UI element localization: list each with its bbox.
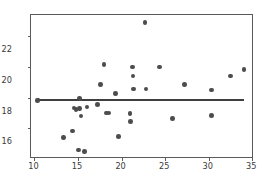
- x-tick-label: 15: [72, 162, 82, 170]
- data-point: [82, 149, 87, 154]
- data-point: [77, 96, 82, 101]
- data-point: [85, 105, 90, 110]
- data-point: [107, 111, 112, 116]
- data-point: [209, 88, 214, 93]
- data-point: [76, 148, 81, 153]
- data-point: [61, 135, 66, 140]
- data-point: [102, 62, 107, 67]
- data-point: [131, 87, 136, 92]
- x-tick-label: 35: [246, 162, 256, 170]
- data-point: [98, 82, 103, 87]
- data-layer: [31, 15, 252, 157]
- data-point: [116, 134, 121, 139]
- y-tick-label: 16: [2, 137, 12, 145]
- data-point: [143, 20, 148, 25]
- data-point: [128, 119, 133, 124]
- data-point: [79, 114, 84, 119]
- scatter-plot-figure: 16182022 101520253035: [0, 0, 264, 185]
- data-point: [228, 74, 233, 79]
- x-tick-label: 10: [28, 162, 38, 170]
- y-tick-label: 20: [2, 76, 12, 84]
- data-point: [242, 67, 247, 72]
- data-point: [170, 116, 175, 121]
- data-point: [144, 87, 149, 92]
- data-point: [209, 113, 214, 118]
- data-point: [95, 102, 100, 107]
- data-point: [130, 65, 135, 70]
- data-point: [131, 74, 136, 79]
- regression-line: [37, 99, 244, 101]
- y-tick-label: 18: [2, 107, 12, 115]
- data-point: [113, 91, 118, 96]
- data-point: [70, 129, 75, 134]
- data-point: [77, 106, 82, 111]
- x-axis-tick-labels: 101520253035: [30, 162, 253, 174]
- x-tick-label: 25: [159, 162, 169, 170]
- data-point: [128, 111, 133, 116]
- plot-area: [30, 14, 253, 158]
- x-tick-label: 20: [115, 162, 125, 170]
- y-tick-label: 22: [2, 45, 12, 53]
- y-axis-tick-labels: 16182022: [0, 14, 26, 158]
- data-point: [182, 82, 187, 87]
- x-tick-label: 30: [202, 162, 212, 170]
- data-point: [157, 65, 162, 70]
